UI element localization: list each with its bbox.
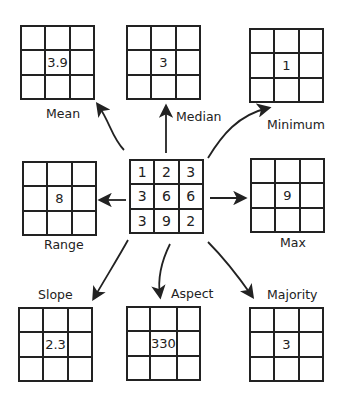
grid-cell — [23, 186, 47, 210]
minimum-grid: 1 — [249, 28, 324, 103]
input-cell: 2 — [179, 209, 203, 233]
grid-cell — [127, 26, 151, 50]
arrow-to-aspect — [159, 244, 170, 296]
aspect-label: Aspect — [171, 286, 213, 301]
grid-cell — [176, 75, 200, 99]
grid-cell — [177, 356, 200, 380]
grid-cell — [45, 26, 69, 50]
grid-cell — [274, 78, 298, 102]
grid-cell — [151, 75, 175, 99]
grid-cell — [70, 26, 94, 50]
grid-cell — [127, 356, 150, 380]
grid-cell — [72, 211, 96, 235]
grid-cell — [251, 183, 275, 207]
grid-cell — [127, 331, 150, 355]
median-label: Median — [176, 109, 221, 124]
max-value: 9 — [275, 183, 299, 207]
grid-cell — [176, 26, 200, 50]
aspect-grid: 330 — [126, 306, 201, 381]
max-grid: 9 — [250, 158, 325, 233]
grid-cell — [19, 308, 43, 332]
max-label: Max — [280, 235, 306, 250]
grid-cell — [72, 186, 96, 210]
range-label: Range — [44, 237, 84, 252]
grid-cell — [43, 308, 67, 332]
median-grid: 3 — [126, 25, 201, 100]
arrow-to-mean — [98, 105, 124, 150]
input-cell: 6 — [179, 184, 203, 208]
input-cell: 9 — [154, 209, 178, 233]
grid-cell — [251, 159, 275, 183]
input-grid: 1 2 3 3 6 6 3 9 2 — [129, 159, 204, 234]
slope-value: 2.3 — [43, 332, 67, 356]
grid-cell — [68, 332, 92, 356]
grid-cell — [177, 331, 200, 355]
grid-cell — [21, 50, 45, 74]
grid-cell — [299, 53, 323, 77]
grid-cell — [21, 75, 45, 99]
grid-cell — [21, 26, 45, 50]
grid-cell — [274, 29, 298, 53]
grid-cell — [72, 162, 96, 186]
mean-label: Mean — [46, 106, 80, 121]
grid-cell — [68, 308, 92, 332]
slope-grid: 2.3 — [18, 307, 93, 382]
majority-grid: 3 — [249, 307, 324, 382]
grid-cell — [250, 29, 274, 53]
input-cell: 3 — [130, 184, 154, 208]
grid-cell — [150, 307, 177, 331]
input-cell: 2 — [154, 160, 178, 184]
majority-value: 3 — [274, 332, 298, 356]
grid-cell — [151, 26, 175, 50]
grid-cell — [299, 78, 323, 102]
grid-cell — [68, 357, 92, 381]
mean-value: 3.9 — [45, 50, 69, 74]
grid-cell — [250, 78, 274, 102]
input-cell: 6 — [154, 184, 178, 208]
grid-cell — [300, 208, 324, 232]
grid-cell — [47, 162, 71, 186]
grid-cell — [127, 307, 150, 331]
grid-cell — [275, 159, 299, 183]
grid-cell — [177, 307, 200, 331]
grid-cell — [127, 50, 151, 74]
aspect-value: 330 — [150, 331, 177, 355]
range-grid: 8 — [22, 161, 97, 236]
input-cell: 3 — [179, 160, 203, 184]
slope-label: Slope — [38, 287, 73, 302]
grid-cell — [250, 53, 274, 77]
minimum-value: 1 — [274, 53, 298, 77]
grid-cell — [70, 75, 94, 99]
grid-cell — [70, 50, 94, 74]
grid-cell — [300, 183, 324, 207]
grid-cell — [299, 308, 323, 332]
grid-cell — [250, 308, 274, 332]
grid-cell — [250, 357, 274, 381]
arrow-to-slope — [94, 240, 128, 298]
grid-cell — [23, 162, 47, 186]
grid-cell — [250, 332, 274, 356]
grid-cell — [19, 357, 43, 381]
median-value: 3 — [151, 50, 175, 74]
grid-cell — [300, 159, 324, 183]
grid-cell — [299, 29, 323, 53]
grid-cell — [274, 308, 298, 332]
grid-cell — [19, 332, 43, 356]
grid-cell — [299, 357, 323, 381]
range-value: 8 — [47, 186, 71, 210]
grid-cell — [43, 357, 67, 381]
majority-label: Majority — [267, 287, 317, 302]
grid-cell — [127, 75, 151, 99]
grid-cell — [299, 332, 323, 356]
grid-cell — [47, 211, 71, 235]
grid-cell — [275, 208, 299, 232]
grid-cell — [23, 211, 47, 235]
arrow-to-majority — [208, 242, 252, 296]
minimum-label: Minimum — [267, 117, 325, 132]
grid-cell — [45, 75, 69, 99]
input-cell: 1 — [130, 160, 154, 184]
grid-cell — [274, 357, 298, 381]
grid-cell — [176, 50, 200, 74]
mean-grid: 3.9 — [20, 25, 95, 100]
grid-cell — [150, 356, 177, 380]
